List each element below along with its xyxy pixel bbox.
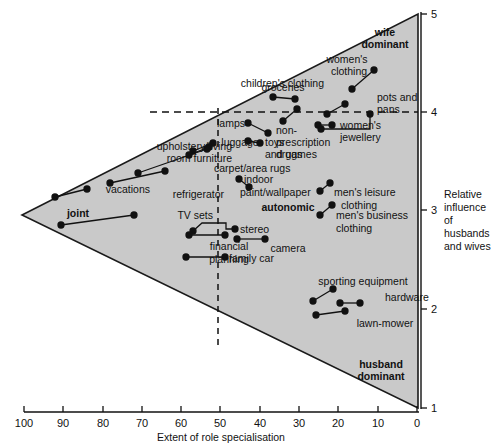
point-label-indoor: indoor [244, 173, 274, 185]
x-tick-60: 60 [175, 417, 187, 429]
point-label-groceries: groceries [261, 81, 304, 93]
x-tick-90: 90 [57, 417, 69, 429]
point-label-mens-business-l2: clothing [336, 222, 372, 234]
point-label-vacations: vacations [106, 183, 150, 195]
x-tick-30: 30 [293, 417, 305, 429]
chart-container: 5 4 3 2 1 Relative influence of husbands… [0, 0, 498, 445]
y-tick-2: 2 [431, 303, 437, 315]
y-axis-title-line1: Relative [444, 188, 482, 200]
y-axis-title-line4: husbands [444, 227, 490, 239]
y-axis-title-line5: and wives [444, 240, 491, 252]
point-label-stereo: stereo [240, 223, 269, 235]
point-label-womens-jewellery-l2: jewellery [339, 131, 382, 143]
point-label-mens-business-l1: men's business [336, 209, 408, 221]
role-specialisation-scatter-plot: 5 4 3 2 1 Relative influence of husbands… [0, 0, 498, 445]
x-tick-0: 0 [414, 417, 420, 429]
y-tick-1: 1 [431, 402, 437, 414]
x-tick-80: 80 [97, 417, 109, 429]
point-label-toys: toys [265, 136, 284, 148]
point-label-hardware: hardware [385, 291, 429, 303]
point-label-financial: financial [210, 240, 249, 252]
point-label-sporting-equipment: sporting equipment [318, 275, 407, 287]
x-axis-ticks [24, 406, 417, 412]
y-tick-4: 4 [431, 106, 437, 118]
x-tick-50: 50 [214, 417, 226, 429]
point-label-upholstery-l1: upholstery/living [157, 140, 232, 152]
point-label-womens-clothing-l1: women's [325, 53, 367, 65]
point-label-lamps: lamps [217, 117, 245, 129]
x-tick-10: 10 [372, 417, 384, 429]
point-label-paint-wallpaper: paint/wallpaper [240, 186, 311, 198]
region-label-wife-dominant: dominant [361, 38, 409, 50]
x-axis-title: Extent of role specialisation [157, 431, 285, 443]
x-tick-70: 70 [136, 417, 148, 429]
y-axis-title-line3: of [444, 214, 453, 226]
x-tick-40: 40 [254, 417, 266, 429]
region-label-wife: wife [374, 26, 396, 38]
y-axis-ticks [421, 14, 427, 408]
point-label-family-car: family car [229, 252, 274, 264]
point-label-upholstery-l2: room furniture [167, 152, 233, 164]
point-label-pots: pots and [377, 91, 417, 103]
point-label-non: non- [276, 124, 298, 136]
point-label-womens-jewellery-l1: women's [339, 119, 381, 131]
y-tick-3: 3 [431, 204, 437, 216]
y-tick-5: 5 [431, 8, 437, 20]
point-label-lawn-mower: lawn-mower [357, 317, 414, 329]
x-tick-100: 100 [15, 417, 33, 429]
region-label-husband-dominant: dominant [357, 370, 405, 382]
point-label-tv-sets: TV sets [177, 209, 213, 221]
region-label-husband: husband [359, 358, 403, 370]
point-label-pans: pans [377, 103, 400, 115]
x-tick-20: 20 [332, 417, 344, 429]
point-label-womens-clothing-l2: clothing [331, 65, 367, 77]
region-label-autonomic: autonomic [261, 201, 314, 213]
y-axis-title-line2: influence [444, 201, 486, 213]
point-label-mens-leisure-l1: men's leisure [334, 186, 396, 198]
point-label-refrigerator: refrigerator [173, 188, 225, 200]
point-label-and-games: and games [265, 148, 317, 160]
point-label-camera: camera [270, 242, 305, 254]
region-label-joint: joint [66, 207, 90, 219]
